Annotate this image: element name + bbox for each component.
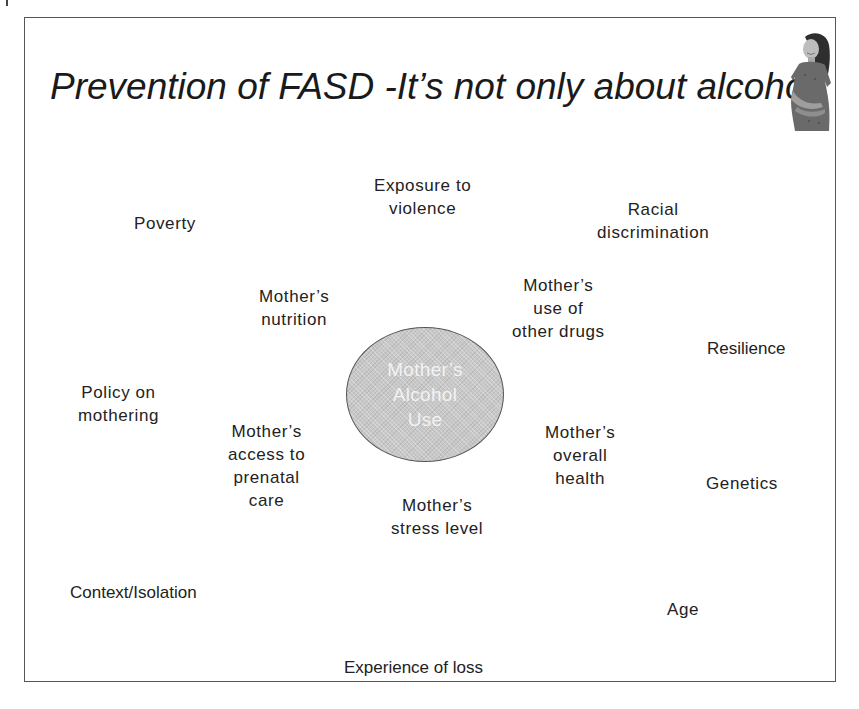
center-node-mothers-alcohol-use: Mother’s Alcohol Use — [346, 327, 504, 462]
factor-exposure-to-violence: Exposure to violence — [374, 174, 471, 220]
factor-experience-of-loss: Experience of loss — [344, 656, 483, 679]
factor-resilience: Resilience — [707, 337, 785, 360]
slide-title: Prevention of FASD -It’s not only about … — [50, 66, 814, 108]
factor-mothers-overall-health: Mother’s overall health — [545, 421, 615, 490]
center-node-label: Mother’s Alcohol Use — [387, 357, 463, 432]
corner-mark — [6, 0, 8, 6]
factor-genetics: Genetics — [706, 472, 778, 495]
factor-poverty: Poverty — [134, 212, 196, 235]
factor-mothers-use-of-other-drugs: Mother’s use of other drugs — [512, 274, 605, 343]
factor-age: Age — [667, 598, 699, 621]
factor-mothers-nutrition: Mother’s nutrition — [259, 285, 329, 331]
factor-policy-on-mothering: Policy on mothering — [78, 381, 159, 427]
factor-mothers-stress-level: Mother’s stress level — [391, 494, 483, 540]
factor-mothers-access-to-prenatal-care: Mother’s access to prenatal care — [228, 420, 305, 512]
factor-context-isolation: Context/Isolation — [70, 581, 197, 604]
factor-racial-discrimination: Racial discrimination — [597, 198, 709, 244]
pregnant-woman-photo-icon — [787, 31, 837, 132]
